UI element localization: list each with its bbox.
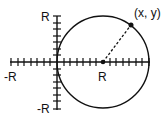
label-center: R [98, 70, 107, 84]
label-y-neg: -R [37, 102, 50, 116]
point-on-circle [129, 23, 134, 28]
radius-line [103, 25, 131, 62]
label-y-pos: R [41, 10, 50, 24]
label-x-neg: -R [4, 70, 17, 84]
center-point [101, 60, 106, 65]
circle-diagram: R -R R -R (x, y) [0, 0, 163, 122]
label-point: (x, y) [134, 6, 161, 20]
